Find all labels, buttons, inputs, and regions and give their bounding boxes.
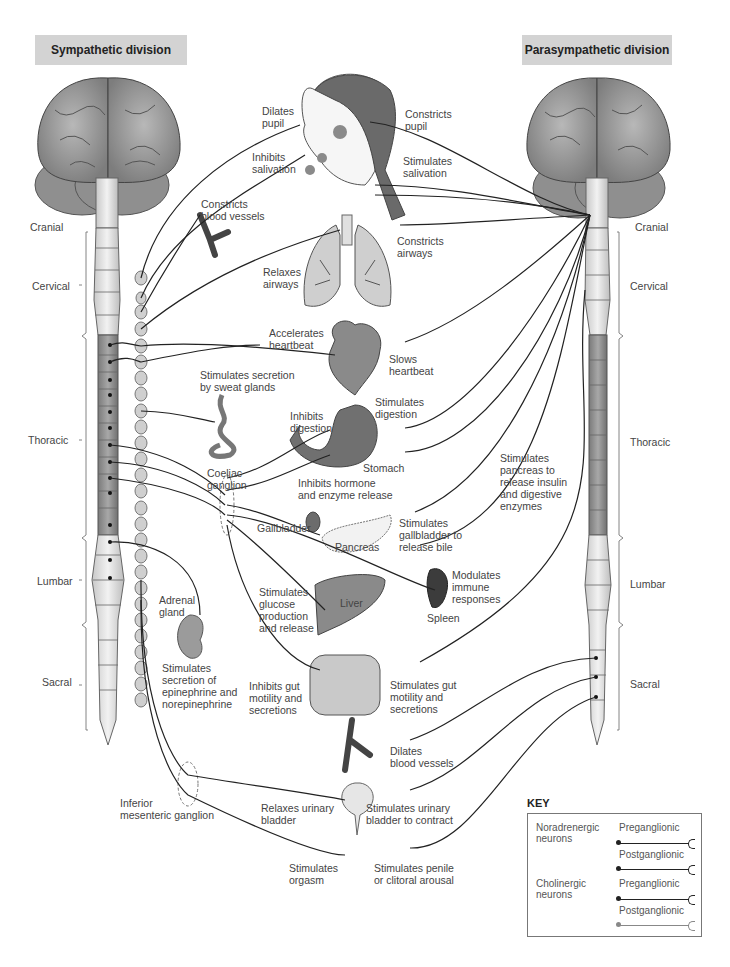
label-relaxes-airways: Relaxes airways xyxy=(263,266,301,290)
label-inhibits-gut-motility: Inhibits gut motility and secretions xyxy=(249,680,302,716)
label-stomach: Stomach xyxy=(363,462,404,474)
right-segment-cranial: Cranial xyxy=(635,221,668,233)
key-legend: Noradrenergic neurons Preganglionic Post… xyxy=(527,813,702,937)
left-segment-cranial: Cranial xyxy=(30,221,63,233)
label-relaxes-urinary-bladder: Relaxes urinary bladder xyxy=(261,802,334,826)
key-cholinergic-post-label: Postganglionic xyxy=(619,905,684,916)
key-noradrenergic-pre-label: Preganglionic xyxy=(619,822,680,833)
right-segment-sacral: Sacral xyxy=(630,678,660,690)
label-dilates-pupil: Dilates pupil xyxy=(262,105,294,129)
right-brain xyxy=(527,78,670,228)
head-illustration xyxy=(302,74,405,220)
key-noradrenergic-pre-line xyxy=(619,843,689,844)
sweat-gland-illustration xyxy=(211,395,234,456)
label-dilates-blood-vessels: Dilates blood vessels xyxy=(390,745,454,769)
label-accelerates-heartbeat: Accelerates heartbeat xyxy=(269,327,324,351)
label-coeliac-ganglion: Coeliac ganglion xyxy=(207,467,247,491)
label-bladder-contract: Stimulates urinary bladder to contract xyxy=(366,802,453,826)
key-cholinergic-post-line xyxy=(619,925,689,926)
label-modulates-immune: Modulates immune responses xyxy=(452,569,500,605)
key-cholinergic-pre-line xyxy=(619,899,689,900)
label-gallbladder: Gallbladder xyxy=(257,522,311,534)
left-spinal-cord xyxy=(92,228,124,745)
sympathetic-division-header: Sympathetic division xyxy=(35,35,187,65)
label-stimulates-orgasm: Stimulates orgasm xyxy=(289,862,338,886)
label-constricts-pupil: Constricts pupil xyxy=(405,108,452,132)
label-stimulates-salivation: Stimulates salivation xyxy=(403,155,452,179)
key-noradrenergic-post-line xyxy=(619,869,689,870)
label-slows-heartbeat: Slows heartbeat xyxy=(389,353,433,377)
left-segment-thoracic: Thoracic xyxy=(28,434,68,446)
label-pancreas: Pancreas xyxy=(335,541,379,553)
label-inhibits-digestion: Inhibits digestion xyxy=(290,410,332,434)
right-segment-thoracic: Thoracic xyxy=(630,436,670,448)
label-stimulates-digestion: Stimulates digestion xyxy=(375,396,424,420)
sympathetic-chain-ganglia xyxy=(135,271,147,707)
label-epinephrine-secretion: Stimulates secretion of epinephrine and … xyxy=(162,662,237,710)
label-pancreas-insulin: Stimulates pancreas to release insulin a… xyxy=(500,452,567,512)
key-cholinergic-pre-label: Preganglionic xyxy=(619,878,680,889)
right-spinal-cord xyxy=(585,228,611,745)
parasympathetic-division-header: Parasympathetic division xyxy=(522,35,672,65)
lungs-illustration xyxy=(304,215,391,306)
label-inferior-mesenteric-ganglion: Inferior mesenteric ganglion xyxy=(120,797,214,821)
label-gallbladder-bile: Stimulates gallbladder to release bile xyxy=(399,517,462,553)
right-segment-lumbar: Lumbar xyxy=(630,578,666,590)
key-noradrenergic-post-label: Postganglionic xyxy=(619,849,684,860)
key-group-noradrenergic: Noradrenergic neurons xyxy=(536,822,599,844)
key-group-cholinergic: Cholinergic neurons xyxy=(536,878,586,900)
label-penile-clitoral-arousal: Stimulates penile or clitoral arousal xyxy=(374,862,454,886)
label-inhibits-hormone-release: Inhibits hormone and enzyme release xyxy=(298,477,393,501)
blood-vessel-bottom xyxy=(345,720,370,770)
label-constricts-blood-vessels: Constricts blood vessels xyxy=(201,198,265,222)
right-segment-cervical: Cervical xyxy=(630,280,668,292)
intestines-illustration xyxy=(310,655,380,715)
label-stimulates-gut-motility: Stimulates gut motility and secretions xyxy=(390,679,457,715)
left-segment-sacral: Sacral xyxy=(42,676,72,688)
left-segment-cervical: Cervical xyxy=(32,280,70,292)
left-brain xyxy=(35,78,180,228)
label-constricts-airways: Constricts airways xyxy=(397,235,444,259)
adrenal-kidney-illustration xyxy=(178,615,203,658)
label-glucose-production: Stimulates glucose production and releas… xyxy=(259,586,314,634)
label-adrenal-gland: Adrenal gland xyxy=(159,594,195,618)
label-inhibits-salivation: Inhibits salivation xyxy=(252,151,296,175)
heart-illustration xyxy=(329,321,381,395)
label-liver: Liver xyxy=(340,597,363,609)
key-title: KEY xyxy=(527,797,550,809)
label-spleen: Spleen xyxy=(427,612,460,624)
label-sweat-glands: Stimulates secretion by sweat glands xyxy=(200,369,295,393)
left-segment-lumbar: Lumbar xyxy=(37,575,73,587)
